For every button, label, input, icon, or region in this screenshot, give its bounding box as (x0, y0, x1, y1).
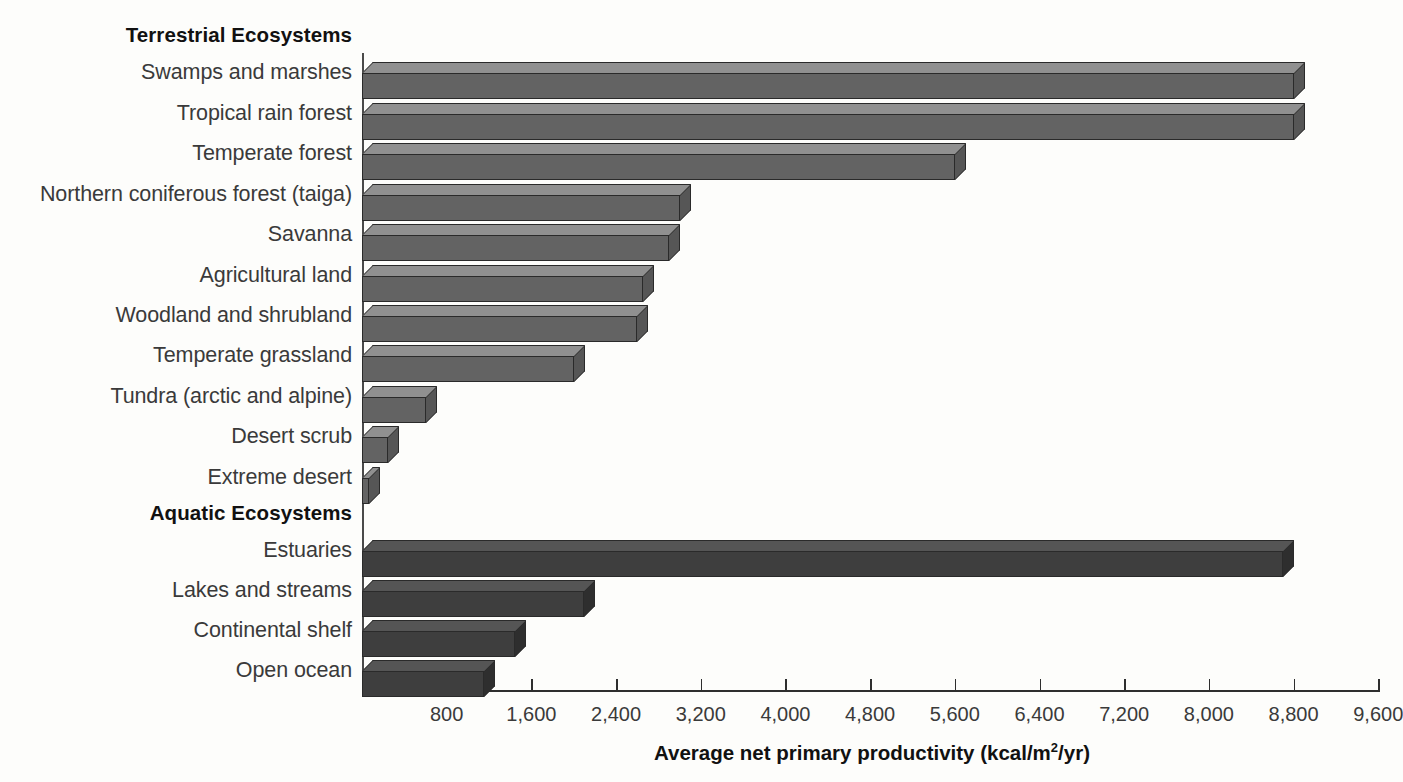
x-axis-tick-label: 6,400 (1014, 703, 1064, 726)
bar-temperate-grassland (362, 356, 574, 382)
bar-top-face (362, 265, 654, 276)
x-axis-tick (1209, 679, 1211, 690)
bar-temperate-forest (362, 154, 955, 180)
bar-desert-scrub (362, 437, 388, 463)
category-label: Tropical rain forest (0, 103, 352, 125)
x-axis-tick (1040, 679, 1042, 690)
bar-swamps-and-marshes (362, 73, 1294, 99)
x-axis-tick (870, 679, 872, 690)
bar-front-face (362, 235, 669, 261)
category-label: Savanna (0, 224, 352, 246)
category-label: Northern coniferous forest (taiga) (0, 184, 352, 206)
category-label: Desert scrub (0, 426, 352, 448)
bar-open-ocean (362, 671, 484, 697)
bar-top-face (362, 305, 648, 316)
x-axis-tick (1294, 679, 1296, 690)
x-axis-tick-label: 4,000 (760, 703, 810, 726)
category-label: Estuaries (0, 540, 352, 562)
plot-area: Average net primary productivity (kcal/m… (362, 40, 1382, 690)
x-axis-line (362, 690, 1380, 692)
bar-front-face (362, 316, 637, 342)
x-axis-tick (785, 679, 787, 690)
category-label: Continental shelf (0, 620, 352, 642)
category-label: Swamps and marshes (0, 62, 352, 84)
bar-top-face (362, 224, 680, 235)
bar-top-face (362, 660, 495, 671)
x-axis-tick (531, 679, 533, 690)
x-axis-tick (701, 679, 703, 690)
category-label: Agricultural land (0, 265, 352, 287)
x-axis-title-superscript: 2 (1051, 740, 1058, 755)
bar-front-face (362, 591, 584, 617)
x-axis-tick-label: 3,200 (676, 703, 726, 726)
x-axis-tick-label: 800 (430, 703, 463, 726)
x-axis-tick-label: 1,600 (506, 703, 556, 726)
x-axis-tick (616, 679, 618, 690)
x-axis-tick (955, 679, 957, 690)
bar-continental-shelf (362, 631, 515, 657)
group-heading: Terrestrial Ecosystems (0, 25, 352, 46)
bar-front-face (362, 631, 515, 657)
category-label: Woodland and shrubland (0, 305, 352, 327)
bar-tropical-rain-forest (362, 114, 1294, 140)
category-label-column: Terrestrial EcosystemsSwamps and marshes… (0, 0, 352, 690)
bar-front-face (362, 154, 955, 180)
x-axis-tick-label: 5,600 (930, 703, 980, 726)
bar-estuaries (362, 551, 1283, 577)
bar-tundra-arctic-and-alpine (362, 397, 426, 423)
bar-front-face (362, 356, 574, 382)
bar-front-face (362, 73, 1294, 99)
bar-front-face (362, 437, 388, 463)
bar-top-face (362, 386, 437, 397)
bar-extreme-desert (362, 478, 369, 504)
x-axis-tick-label: 8,800 (1269, 703, 1319, 726)
bar-front-face (362, 551, 1283, 577)
x-axis-title: Average net primary productivity (kcal/m… (362, 740, 1382, 765)
category-label: Temperate forest (0, 143, 352, 165)
x-axis-tick-label: 8,000 (1184, 703, 1234, 726)
bar-northern-coniferous-forest-taiga (362, 195, 680, 221)
bar-front-face (362, 276, 643, 302)
category-label: Extreme desert (0, 467, 352, 489)
x-axis-tick-label: 7,200 (1099, 703, 1149, 726)
bar-top-face (362, 184, 691, 195)
category-label: Lakes and streams (0, 580, 352, 602)
x-axis-tick-label: 4,800 (845, 703, 895, 726)
bar-top-face (362, 345, 585, 356)
x-axis-tick-label: 2,400 (591, 703, 641, 726)
x-axis-tick (1124, 679, 1126, 690)
bar-woodland-and-shrubland (362, 316, 637, 342)
bar-front-face (362, 671, 484, 697)
x-axis-tick (1378, 679, 1380, 690)
x-axis-tick-label: 9,600 (1353, 703, 1403, 726)
bar-front-face (362, 195, 680, 221)
bar-top-face (362, 580, 595, 591)
bar-top-face (362, 143, 966, 154)
category-label: Open ocean (0, 660, 352, 682)
bar-savanna (362, 235, 669, 261)
bar-top-face (362, 103, 1305, 114)
bar-top-face (362, 62, 1305, 73)
group-heading: Aquatic Ecosystems (0, 503, 352, 524)
bar-front-face (362, 114, 1294, 140)
bar-front-face (362, 397, 426, 423)
bar-agricultural-land (362, 276, 643, 302)
bar-top-face (362, 540, 1294, 551)
category-label: Temperate grassland (0, 345, 352, 367)
category-label: Tundra (arctic and alpine) (0, 386, 352, 408)
bar-front-face (362, 478, 369, 504)
bar-top-face (362, 620, 526, 631)
bar-lakes-and-streams (362, 591, 584, 617)
